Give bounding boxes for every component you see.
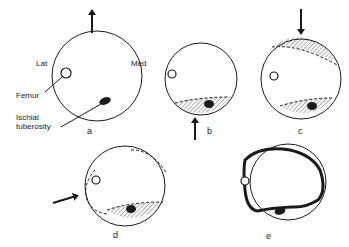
ischial-tuberosity-marker [307,102,317,110]
femur-marker [92,176,100,184]
panel-e: e [241,144,326,241]
femur-marker [61,68,71,78]
panel-label-c: c [298,126,303,136]
panel-a: Lat Med Femur Ischial tuberosity a [16,12,147,136]
panel-label-d: d [113,230,118,240]
panel-label-a: a [87,126,92,136]
lateral-label: Lat [36,59,48,68]
force-arrow-right-icon [53,196,76,203]
ischial-leader-line [61,104,101,127]
femur-label: Femur [16,91,39,100]
femur-marker [241,177,249,185]
ischial-tuberosity-marker [126,205,136,213]
panel-d: d [53,146,166,240]
ischial-label-line1: Ischial [16,113,39,122]
ischial-label-line2: tuberosity [16,122,51,131]
panel-c: c [261,9,341,136]
femur-leader-line [45,77,62,92]
medial-label: Med [131,59,147,68]
pressure-deformation-diagram: Lat Med Femur Ischial tuberosity a b c [0,0,349,247]
panel-label-b: b [207,126,212,136]
ischial-tuberosity-marker [204,100,214,108]
compression-zone-c-top [272,37,335,62]
femur-marker [168,70,176,78]
femur-marker [270,72,278,80]
panel-b: b [165,43,237,140]
panel-label-e: e [266,231,271,241]
